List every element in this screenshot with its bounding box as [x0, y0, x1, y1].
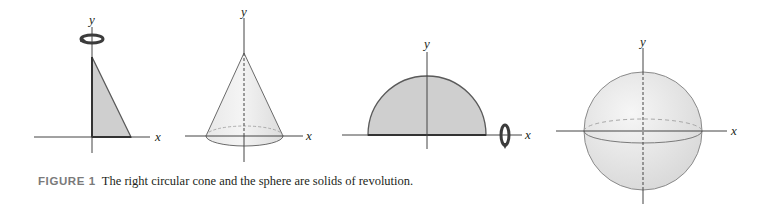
caption-text: The right circular cone and the sphere a… — [102, 174, 413, 188]
panel-sphere: y x — [556, 34, 737, 204]
y-axis-label: y — [239, 4, 247, 19]
figure-label: FIGURE 1 — [38, 175, 96, 187]
x-axis-label: x — [730, 123, 737, 138]
y-axis-label: y — [422, 36, 430, 51]
x-axis-label: x — [305, 128, 312, 143]
x-axis-label: x — [154, 129, 161, 144]
x-axis-label: x — [524, 127, 531, 142]
rotation-arrow-icon — [501, 125, 509, 149]
figure-caption: FIGURE 1The right circular cone and the … — [38, 174, 413, 189]
y-axis-label: y — [638, 34, 646, 49]
panel-triangle: y x — [34, 12, 161, 153]
triangle-region — [92, 57, 131, 137]
panel-semicircle: y x — [342, 36, 531, 149]
y-axis-label: y — [87, 12, 95, 27]
panel-cone: y x — [185, 4, 312, 162]
